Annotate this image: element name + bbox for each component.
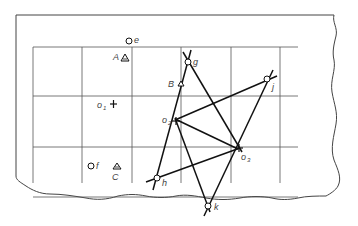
svg-text:A: A <box>112 52 119 62</box>
triangulation-diagram: e A B g j o 1 o 2 o 3 f C <box>0 0 358 226</box>
svg-text:1: 1 <box>103 105 106 111</box>
svg-text:e: e <box>134 35 139 45</box>
svg-text:C: C <box>112 172 119 182</box>
svg-text:h: h <box>162 178 167 188</box>
paper-sheet <box>16 15 340 200</box>
svg-text:2: 2 <box>167 120 172 126</box>
svg-text:o: o <box>97 100 102 110</box>
svg-text:k: k <box>214 202 219 212</box>
svg-text:o: o <box>241 152 246 162</box>
svg-text:g: g <box>193 57 198 67</box>
svg-text:B: B <box>168 79 174 89</box>
svg-text:o: o <box>162 115 167 125</box>
